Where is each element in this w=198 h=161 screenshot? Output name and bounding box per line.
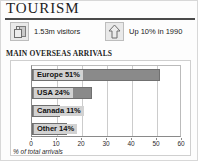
bar-label-usa: USA 24%	[34, 88, 73, 98]
tourism-infographic: TOURISM 1.53m visitors Up 10% in 1990 MA…	[0, 0, 198, 161]
bar-label-europe: Europe 51%	[34, 70, 83, 80]
stat-visitors-label: 1.53m visitors	[34, 28, 80, 36]
title-divider	[5, 18, 195, 20]
chart-panel: Europe 51%USA 24%Canada 11%Other 14% % o…	[10, 60, 191, 156]
x-tick-label: 30	[102, 140, 109, 147]
stat-growth-label: Up 10% in 1990	[129, 28, 182, 36]
x-tick-label: 20	[77, 140, 84, 147]
x-tick-label: 50	[152, 140, 159, 147]
plot-area: Europe 51%USA 24%Canada 11%Other 14%	[31, 65, 181, 137]
up-arrow-glyph-icon	[108, 24, 121, 39]
x-axis-title: % of total arrivals	[13, 148, 63, 155]
x-tick-label: 0	[29, 140, 33, 147]
x-tick-label: 40	[127, 140, 134, 147]
bar-label-canada: Canada 11%	[34, 106, 84, 116]
x-tick-label: 60	[177, 140, 184, 147]
bar-row: Europe 51%	[32, 69, 182, 81]
luggage-icon	[10, 22, 29, 41]
bar-label-other: Other 14%	[34, 124, 77, 134]
page-title: TOURISM	[6, 0, 80, 17]
bar-row: Canada 11%	[32, 105, 182, 117]
chart-subhead: MAIN OVERSEAS ARRIVALS	[6, 49, 112, 58]
stat-growth: Up 10% in 1990	[105, 22, 182, 41]
luggage-front-icon	[14, 29, 22, 38]
x-tick-label: 10	[52, 140, 59, 147]
bar-row: USA 24%	[32, 87, 182, 99]
bar-row: Other 14%	[32, 123, 182, 135]
up-arrow-icon	[105, 22, 124, 41]
stat-visitors: 1.53m visitors	[10, 22, 80, 41]
